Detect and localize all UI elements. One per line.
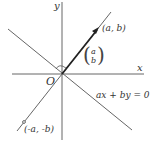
y-axis-label: y	[54, 1, 60, 11]
left-paren-icon: (	[83, 46, 91, 64]
normal-vector-column-label: ( a b )	[84, 46, 104, 66]
vector-arrowhead	[92, 27, 99, 34]
line-ax-by-0	[8, 29, 132, 130]
vector-component-a: a	[91, 47, 96, 56]
x-axis-label: x	[137, 63, 143, 73]
right-angle-marker	[56, 66, 66, 69]
diagram-canvas: y x O (a, b) (-a, -b) ax + by = 0 ( a b …	[0, 0, 152, 146]
right-paren-icon: )	[97, 46, 105, 64]
line-equation-label: ax + by = 0	[96, 91, 150, 100]
point-neg-a-neg-b-label: (-a, -b)	[24, 125, 54, 134]
point-a-b-label: (a, b)	[102, 24, 126, 33]
origin-label: O	[46, 76, 55, 87]
vector-component-b: b	[91, 56, 96, 65]
point-neg-a-neg-b	[23, 121, 26, 124]
diagram-svg	[0, 0, 152, 146]
